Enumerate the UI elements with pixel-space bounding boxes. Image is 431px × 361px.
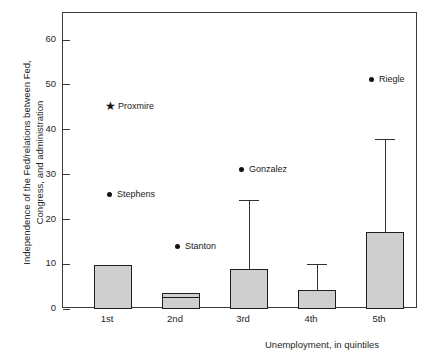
box-1st (94, 265, 132, 309)
y-tick-0 (63, 309, 70, 310)
point-label-gonzalez: Gonzalez (249, 165, 287, 174)
marker-dot-stanton (175, 244, 180, 249)
marker-dot-riegle (369, 77, 374, 82)
plot-area: ★ Proxmire Stephens Stanton Gonzalez Rie… (62, 12, 417, 308)
point-label-proxmire: Proxmire (118, 102, 154, 111)
x-tick-label-2nd: 2nd (150, 314, 200, 324)
y-tick-60 (63, 40, 70, 41)
y-tick-40 (63, 129, 70, 130)
x-tick-label-4th: 4th (286, 314, 336, 324)
whisker-stem-3rd (249, 200, 250, 269)
y-tick-50 (63, 84, 70, 85)
marker-dot-stephens (107, 192, 112, 197)
point-label-riegle: Riegle (379, 75, 405, 84)
marker-star-proxmire: ★ (105, 103, 116, 109)
box-2nd (162, 293, 200, 309)
box-3rd (230, 269, 268, 309)
whisker-stem-4th (317, 264, 318, 293)
y-tick-30 (63, 174, 70, 175)
y-axis-title-line-1: Independence of the Fed/relations betwee… (21, 43, 34, 283)
whisker-cap-5th (375, 139, 395, 140)
box-4th (298, 290, 336, 308)
whisker-stem-5th (385, 139, 386, 234)
y-tick-20 (63, 219, 70, 220)
whisker-cap-4th (307, 264, 327, 265)
y-axis-title-line-2: Congress, and administration (33, 43, 46, 283)
x-tick-label-3rd: 3rd (218, 314, 268, 324)
point-label-stanton: Stanton (185, 242, 216, 251)
x-tick-label-1st: 1st (82, 314, 132, 324)
x-tick-label-5th: 5th (354, 314, 404, 324)
point-label-stephens: Stephens (117, 190, 155, 199)
box-5th (366, 232, 404, 308)
boxplot-figure: 0 10 20 30 40 50 60 Independence of the … (0, 0, 431, 361)
marker-dot-gonzalez (239, 167, 244, 172)
y-axis-title: Independence of the Fed/relations betwee… (21, 43, 46, 283)
y-tick-label-0: 0 (28, 303, 56, 313)
whisker-cap-3rd (239, 200, 259, 201)
y-tick-10 (63, 264, 70, 265)
median-2nd (162, 297, 200, 298)
x-axis-title: Unemployment, in quintiles (265, 339, 379, 350)
